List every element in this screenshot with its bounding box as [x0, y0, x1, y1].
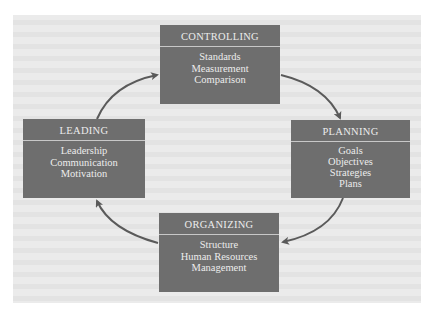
organizing-item: Structure	[159, 239, 279, 251]
planning-title: PLANNING	[291, 120, 410, 142]
arrow-leading-to-controlling	[97, 75, 157, 119]
arrow-controlling-to-planning	[281, 75, 340, 118]
planning-item: Goals	[291, 145, 410, 156]
controlling-item: Comparison	[160, 74, 280, 86]
planning-item: Strategies	[291, 167, 410, 178]
organizing-item: Human Resources	[159, 251, 279, 263]
organizing-box: ORGANIZING Structure Human Resources Man…	[159, 213, 279, 292]
leading-item: Communication	[23, 157, 145, 169]
arrow-organizing-to-leading	[97, 201, 158, 243]
controlling-box: CONTROLLING Standards Measurement Compar…	[160, 25, 280, 104]
planning-item: Plans	[291, 178, 410, 189]
controlling-items: Standards Measurement Comparison	[160, 47, 280, 86]
organizing-items: Structure Human Resources Management	[159, 235, 279, 274]
controlling-item: Measurement	[160, 63, 280, 75]
leading-box: LEADING Leadership Communication Motivat…	[23, 119, 145, 198]
leading-item: Motivation	[23, 168, 145, 180]
organizing-item: Management	[159, 262, 279, 274]
organizing-title: ORGANIZING	[159, 213, 279, 235]
planning-item: Objectives	[291, 156, 410, 167]
arrow-planning-to-organizing	[283, 198, 343, 242]
controlling-title: CONTROLLING	[160, 25, 280, 47]
leading-items: Leadership Communication Motivation	[23, 141, 145, 180]
leading-title: LEADING	[23, 119, 145, 141]
planning-box: PLANNING Goals Objectives Strategies Pla…	[291, 120, 410, 198]
planning-items: Goals Objectives Strategies Plans	[291, 142, 410, 189]
controlling-item: Standards	[160, 51, 280, 63]
leading-item: Leadership	[23, 145, 145, 157]
